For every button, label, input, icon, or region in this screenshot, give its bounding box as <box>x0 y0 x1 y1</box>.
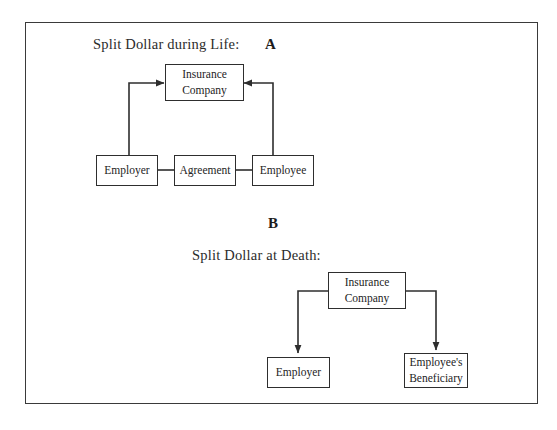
panel-a-agreement-label: Agreement <box>179 163 230 179</box>
connector-employee-to-insurance <box>244 83 273 155</box>
panel-a-employee-label: Employee <box>260 163 307 179</box>
panel-b-insurance-line2: Company <box>345 291 390 307</box>
panel-b-node-insurance-company: Insurance Company <box>328 272 406 309</box>
panel-a-caption: Split Dollar during Life: <box>93 36 239 53</box>
panel-b-insurance-line1: Insurance <box>345 275 390 291</box>
panel-a-node-employee: Employee <box>252 155 314 186</box>
panel-a-employer-label: Employer <box>104 163 149 179</box>
panel-a-insurance-line1: Insurance <box>182 67 227 83</box>
connector-employer-to-insurance <box>129 83 164 155</box>
panel-a-node-insurance-company: Insurance Company <box>165 64 244 101</box>
connector-insurance-to-beneficiary <box>406 291 436 350</box>
panel-a-insurance-line2: Company <box>182 83 227 99</box>
panel-a-node-agreement: Agreement <box>174 155 236 186</box>
panel-a-letter: A <box>265 36 276 53</box>
panel-b-beneficiary-line1: Employee's <box>409 355 462 371</box>
panel-b-caption: Split Dollar at Death: <box>192 247 321 264</box>
connector-insurance-to-employer <box>298 291 328 353</box>
panel-b-node-beneficiary: Employee's Beneficiary <box>404 353 468 388</box>
panel-b-letter: B <box>268 215 278 232</box>
panel-a-node-employer: Employer <box>96 155 158 186</box>
figure-page: Split Dollar during Life: A Insurance Co… <box>0 0 557 430</box>
panel-b-node-employer: Employer <box>267 357 330 388</box>
panel-b-employer-label: Employer <box>276 365 321 381</box>
panel-b-beneficiary-line2: Beneficiary <box>409 371 463 387</box>
